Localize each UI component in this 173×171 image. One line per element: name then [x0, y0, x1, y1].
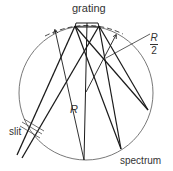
half-radius-numerator: R: [150, 33, 157, 43]
diffracted-ray-3: [75, 26, 121, 149]
half-radius-denominator: 2: [151, 46, 157, 56]
half-radius-label: R 2: [150, 33, 158, 56]
spectrum-label: spectrum: [120, 156, 161, 166]
half-radius-leader: [106, 34, 150, 58]
slit-label: slit: [9, 127, 21, 137]
radius-label: R: [70, 104, 78, 115]
incident-ray-1: [17, 26, 75, 155]
grating-label: grating: [72, 3, 106, 14]
incident-ray-2: [22, 26, 99, 158]
rowland-circle-diagram: [0, 0, 173, 171]
